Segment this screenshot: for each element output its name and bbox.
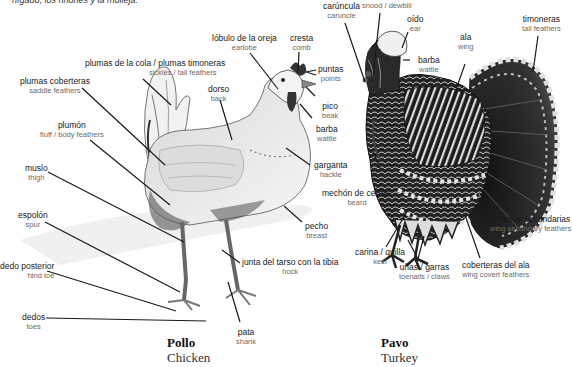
label-chicken-spur: espolón spur [18,210,48,230]
label-turkey-ear: oído ear [407,14,424,34]
label-turkey-snood: moco snood / dewbill [362,0,412,11]
illustration [0,0,572,367]
label-turkey-caruncle: carúncula caruncle [323,1,360,21]
label-chicken-shank: pata shank [236,327,256,347]
label-chicken-toes: dedos toes [22,312,45,332]
label-turkey-wattle: barba wattle [418,55,440,75]
label-turkey-tail-feathers: timoneras tail feathers [522,14,561,34]
chicken-title: Pollo Chicken [167,335,210,365]
label-chicken-comb: cresta comb [290,33,313,53]
label-turkey-secondary-feathers: remeras secundarias wing secondary feath… [490,214,571,234]
label-chicken-hock: junta del tarso con la tibia hock [242,257,338,277]
label-turkey-keel: carina / quilla keel [355,247,405,267]
label-turkey-beard: mechón de cerdas beard [322,188,392,208]
turkey-drawing [363,31,558,270]
label-chicken-fluff: plumón fluff / body feathers [40,120,104,140]
label-chicken-beak: pico beak [322,101,338,121]
label-chicken-wattle: barba wattle [316,124,338,144]
label-chicken-hind-toe: dedo posterior hind toe [0,261,54,281]
label-chicken-tail-feathers: plumas de la cola / plumas timoneras sic… [85,58,225,78]
label-chicken-back: dorso back [208,84,229,104]
label-turkey-wing: ala wing [458,32,473,52]
label-chicken-thigh: muslo thigh [25,163,48,183]
label-chicken-breast: pecho breast [305,221,328,241]
turkey-title: Pavo Turkey [381,335,418,365]
label-chicken-points: puntas points [318,64,344,84]
label-turkey-covert-feathers: coberteras del ala wing covert feathers [462,260,530,280]
label-chicken-earlobe: lóbulo de la oreja earlobe [212,33,277,53]
label-turkey-toenails: uñas / garras toenails / claws [399,262,450,282]
label-chicken-hackle: garganta hackle [314,160,348,180]
label-chicken-saddle-feathers: plumas coberteras saddle feathers [20,76,90,96]
